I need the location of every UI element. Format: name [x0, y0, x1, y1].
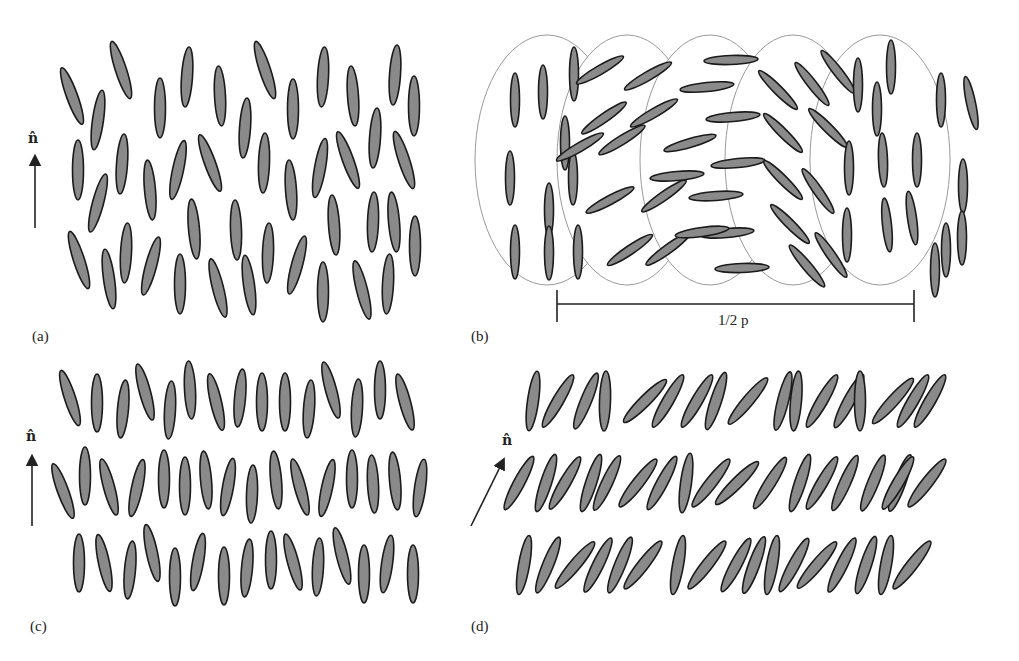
molecule-rod — [855, 371, 866, 431]
molecule-rod — [316, 47, 330, 107]
molecule-rod — [155, 78, 166, 138]
molecule-rod — [257, 373, 268, 431]
molecule-rod — [409, 76, 420, 136]
molecule-rod — [204, 373, 228, 432]
pitch-label: 1/2 p — [718, 312, 748, 329]
molecule-rod — [114, 134, 129, 195]
panel-label-b: (b) — [471, 328, 489, 345]
molecule-rod — [347, 450, 358, 508]
molecule-rod — [345, 66, 360, 127]
molecule-rod — [942, 223, 951, 277]
molecule-rod — [280, 373, 291, 431]
molecule-rod — [367, 108, 382, 169]
director-symbol-a: n̂ — [28, 130, 38, 146]
molecule-rod — [387, 45, 402, 106]
molecule-rod — [92, 374, 103, 432]
molecule-rod — [170, 548, 181, 606]
molecule-rod — [318, 361, 344, 420]
molecule-rod — [175, 254, 186, 314]
molecule-rod — [506, 151, 515, 205]
molecule-rod — [309, 138, 330, 199]
molecule-rod — [213, 66, 227, 126]
molecule-rod — [937, 73, 946, 127]
molecule-rod — [959, 159, 968, 213]
molecule-rod — [288, 79, 299, 139]
molecule-rod — [410, 216, 421, 276]
molecule-rod — [366, 192, 379, 252]
molecule-rod — [598, 371, 611, 431]
molecule-rod — [163, 381, 177, 439]
molecule-rod — [511, 225, 520, 279]
molecule-rod — [523, 371, 542, 432]
molecule-rod — [132, 363, 158, 422]
molecule-rod — [350, 379, 364, 437]
molecule-rod — [188, 532, 209, 591]
molecule-rod — [198, 451, 214, 510]
molecule-rod — [389, 130, 418, 190]
molecule-rod — [73, 140, 84, 200]
molecule-rod — [106, 40, 135, 100]
molecule-rod — [667, 535, 688, 596]
molecule-rod — [57, 66, 88, 126]
molecule-rod — [218, 457, 239, 516]
molecule-rod — [93, 533, 116, 592]
molecule-rod — [561, 116, 570, 170]
molecule-rod — [88, 90, 107, 151]
molecule-rod — [115, 380, 131, 439]
molecule-rod — [237, 98, 252, 159]
molecule-rod — [141, 523, 164, 582]
molecule-rod — [854, 58, 863, 112]
molecule-rod — [958, 211, 967, 265]
molecule-rod — [257, 133, 270, 193]
nematic-panel — [57, 40, 421, 322]
molecule-rod — [513, 535, 534, 596]
molecule-rod — [511, 73, 520, 127]
panel-label-d: (d) — [471, 618, 489, 635]
molecule-rod — [245, 465, 258, 523]
molecule-rod — [138, 236, 164, 297]
molecule-rod — [725, 374, 772, 427]
molecule-rod — [96, 458, 122, 517]
molecule-rod — [574, 225, 583, 279]
molecule-rod — [122, 541, 138, 600]
molecule-rod — [99, 249, 118, 310]
molecule-rod — [570, 47, 579, 101]
molecule-rod — [326, 195, 341, 256]
molecule-rod — [889, 538, 935, 592]
molecule-rod — [843, 208, 852, 262]
molecule-rod — [316, 458, 339, 517]
molecule-rod — [392, 373, 418, 432]
molecule-rod — [159, 450, 170, 508]
molecule-rod — [301, 380, 316, 439]
molecule-rod — [80, 447, 91, 505]
molecule-rod — [539, 65, 548, 119]
director-symbol-c: n̂ — [26, 428, 36, 444]
molecule-rod — [913, 133, 922, 187]
molecule-rod — [85, 173, 111, 234]
molecule-rod — [411, 459, 430, 518]
molecule-rod — [280, 533, 306, 592]
molecule-rod — [268, 451, 284, 510]
molecule-rod — [126, 458, 149, 517]
molecule-rod — [845, 141, 854, 195]
molecule-rod — [166, 140, 189, 201]
panel-label-c: (c) — [30, 618, 47, 635]
molecule-rod — [349, 260, 374, 321]
molecule-rod — [408, 545, 419, 603]
molecule-rod — [887, 40, 896, 94]
molecule-rod — [381, 254, 395, 314]
molecule-rod — [311, 538, 325, 596]
molecule-rod — [119, 223, 133, 283]
molecule-rod — [569, 151, 578, 205]
molecule-rod — [219, 547, 230, 605]
molecule-rod — [142, 160, 158, 221]
molecule-rod — [538, 372, 578, 429]
molecule-rod — [48, 462, 78, 520]
molecule-rod — [359, 545, 370, 603]
molecule-rod — [64, 230, 93, 290]
smectic-c-panel — [500, 371, 950, 596]
molecule-rod — [205, 258, 230, 319]
molecule-rod — [387, 452, 403, 511]
molecule-rod — [74, 534, 85, 592]
panel-label-a: (a) — [32, 328, 49, 345]
